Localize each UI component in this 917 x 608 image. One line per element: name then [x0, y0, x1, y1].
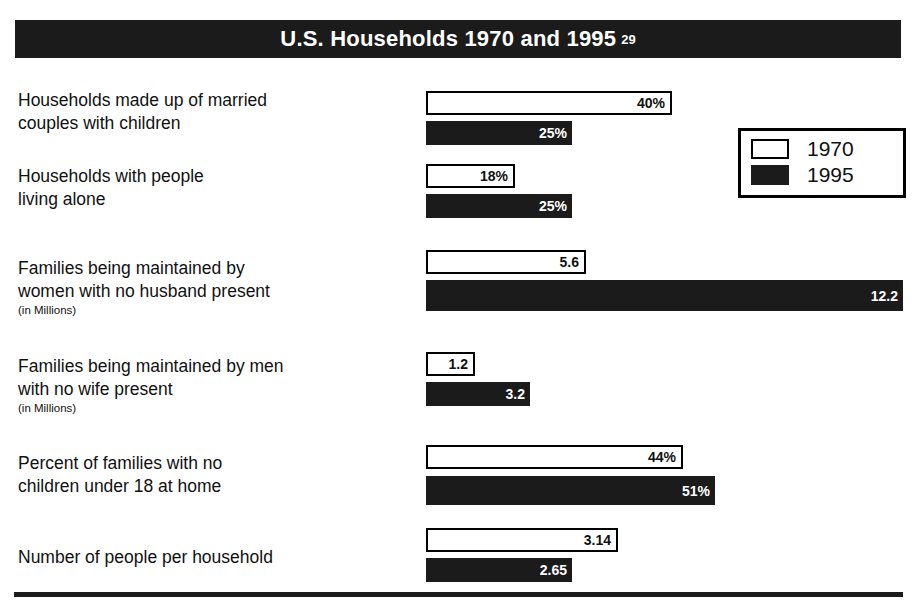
chart-title-band: U.S. Households 1970 and 199529: [15, 20, 901, 58]
bar-1995: 25%: [426, 121, 572, 145]
row-sublabel: (in Millions): [18, 401, 76, 415]
chart-legend: 1970 1995: [738, 128, 906, 198]
row-label: Percent of families with no children und…: [18, 452, 222, 498]
bar-1970: 44%: [426, 445, 683, 469]
bar-1970: 5.6: [426, 250, 586, 274]
legend-item-1995: 1995: [751, 164, 854, 185]
row-label: Families being maintained by men with no…: [18, 355, 284, 401]
bar-1995: 51%: [426, 476, 715, 505]
legend-item-1970: 1970: [751, 138, 854, 159]
title-footnote-superscript: 29: [621, 32, 635, 47]
row-label: Number of people per household: [18, 546, 273, 569]
bar-value-1995: 2.65: [540, 562, 572, 578]
row-label: Families being maintained by women with …: [18, 257, 270, 303]
bar-value-1970: 18%: [480, 168, 513, 184]
legend-swatch-1995-icon: [751, 165, 789, 185]
bar-value-1995: 12.2: [871, 288, 903, 304]
page-title: U.S. Households 1970 and 1995: [280, 26, 616, 52]
bar-1995: 12.2: [426, 280, 903, 311]
bar-1970: 40%: [426, 91, 672, 115]
bar-value-1970: 1.2: [449, 356, 473, 372]
bottom-divider: [14, 592, 903, 597]
bar-1995: 3.2: [426, 382, 530, 406]
bar-value-1970: 44%: [648, 449, 681, 465]
bar-1995: 2.65: [426, 558, 572, 582]
legend-label-1995: 1995: [807, 164, 854, 185]
bar-1995: 25%: [426, 194, 572, 218]
bar-value-1970: 5.6: [560, 254, 584, 270]
bar-1970: 1.2: [426, 352, 475, 376]
row-label: Households with people living alone: [18, 165, 204, 211]
legend-label-1970: 1970: [807, 138, 854, 159]
bar-value-1995: 25%: [539, 198, 572, 214]
row-sublabel: (in Millions): [18, 303, 76, 317]
bar-value-1970: 3.14: [584, 532, 616, 548]
bar-value-1995: 51%: [682, 483, 715, 499]
bar-1970: 3.14: [426, 528, 618, 552]
bar-value-1995: 3.2: [506, 386, 530, 402]
legend-swatch-1970-icon: [751, 139, 789, 159]
chart-container: U.S. Households 1970 and 199529 Househol…: [0, 0, 917, 608]
bar-value-1995: 25%: [539, 125, 572, 141]
bar-1970: 18%: [426, 164, 515, 188]
bar-value-1970: 40%: [637, 95, 670, 111]
row-label: Households made up of married couples wi…: [18, 89, 267, 135]
